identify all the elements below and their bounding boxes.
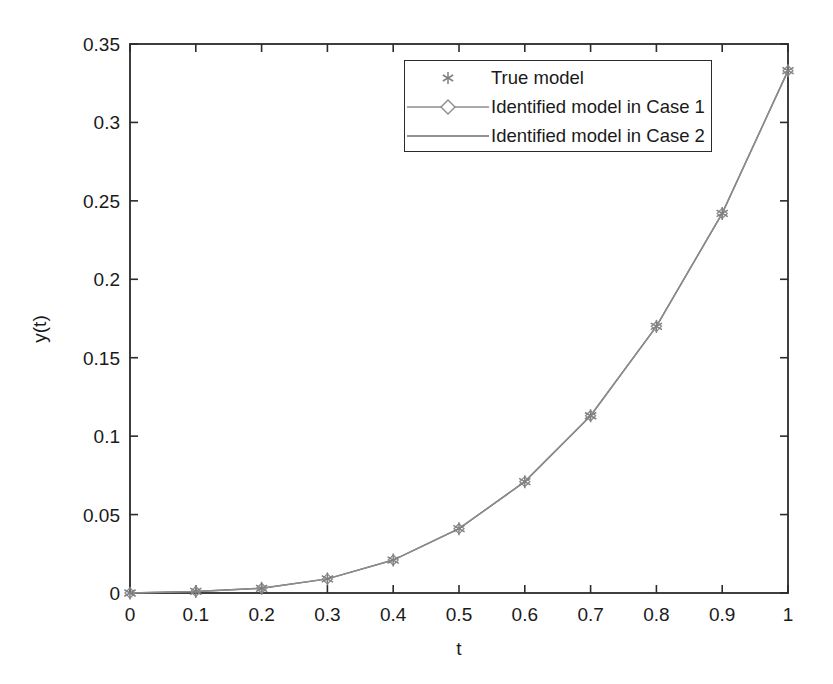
y-tick-label: 0.35	[40, 35, 120, 54]
y-axis-label: y(t)	[29, 289, 51, 369]
legend-label: Identified model in Case 1	[491, 96, 705, 118]
x-tick-label: 0.9	[709, 605, 735, 624]
x-tick-label: 0.1	[183, 605, 209, 624]
x-tick-label: 1	[783, 605, 794, 624]
x-tick-label: 0.4	[380, 605, 406, 624]
y-tick-label: 0.05	[40, 505, 120, 524]
x-tick-label: 0.2	[248, 605, 274, 624]
x-tick-label: 0.8	[643, 605, 669, 624]
legend: True model Identified model in Case 1 Id…	[404, 60, 712, 152]
y-tick-label: 0.25	[40, 191, 120, 210]
y-tick-label: 0.2	[40, 270, 120, 289]
x-tick-label: 0	[125, 605, 136, 624]
legend-marker-diamond-line	[405, 92, 491, 122]
x-tick-label: 0.5	[446, 605, 472, 624]
x-axis-label: t	[456, 638, 461, 660]
legend-label: Identified model in Case 2	[491, 125, 705, 147]
y-tick-label: 0	[40, 584, 120, 603]
x-tick-label: 0.7	[577, 605, 603, 624]
legend-item-case-2: Identified model in Case 2	[405, 121, 711, 151]
figure-canvas: 00.050.10.150.20.250.30.35 00.10.20.30.4…	[0, 0, 833, 684]
x-tick-label: 0.3	[314, 605, 340, 624]
legend-marker-asterisk	[405, 63, 491, 93]
y-tick-label: 0.1	[40, 427, 120, 446]
legend-item-true-model: True model	[405, 63, 711, 93]
y-tick-label: 0.3	[40, 113, 120, 132]
legend-item-case-1: Identified model in Case 1	[405, 92, 711, 122]
legend-marker-line	[405, 121, 491, 151]
y-tick-label: 0.15	[40, 348, 120, 367]
x-tick-label: 0.6	[512, 605, 538, 624]
legend-label: True model	[491, 67, 584, 89]
